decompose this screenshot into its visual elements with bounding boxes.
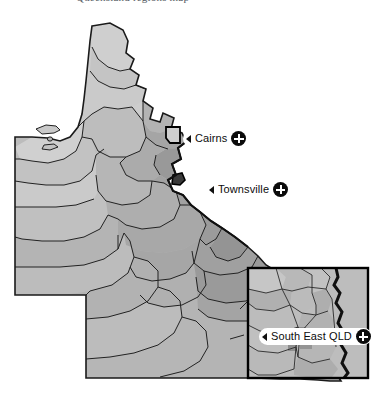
- plus-circle-icon[interactable]: [231, 131, 246, 146]
- plus-circle-icon[interactable]: [273, 182, 288, 197]
- callout-arrow-icon: [262, 333, 267, 341]
- callout-townsville[interactable]: Townsville: [206, 181, 289, 198]
- map-canvas[interactable]: Cairns Townsville South East QLD: [0, 9, 378, 404]
- header-caption-text: Queensland regions map: [76, 0, 189, 3]
- callout-cairns[interactable]: Cairns: [183, 130, 247, 147]
- south-east-qld-inset-box[interactable]: [248, 268, 368, 378]
- callout-label: South East QLD: [271, 331, 352, 342]
- callout-south-east-qld[interactable]: South East QLD: [259, 328, 372, 345]
- header-caption-strip: Queensland regions map: [0, 0, 378, 9]
- callout-arrow-icon: [186, 135, 191, 143]
- cairns-highlight-area[interactable]: [166, 127, 180, 143]
- callout-label: Cairns: [195, 133, 227, 144]
- callout-arrow-icon: [209, 186, 214, 194]
- callout-label: Townsville: [218, 184, 269, 195]
- inset-subregions: [248, 268, 338, 378]
- townsville-highlight-area[interactable]: [172, 173, 185, 185]
- plus-circle-icon[interactable]: [356, 329, 371, 344]
